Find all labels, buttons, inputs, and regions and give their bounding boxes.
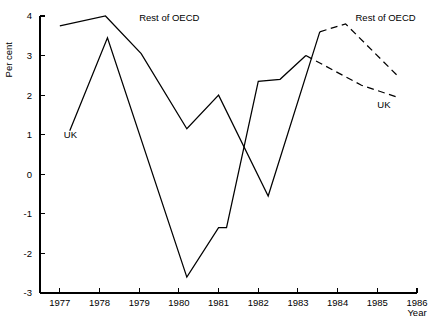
- x-tick-label: 1980: [168, 297, 189, 308]
- series-annotations: Rest of OECDRest of OECDUKUK: [64, 12, 416, 140]
- y-axis-title: Per cent: [3, 42, 14, 78]
- x-axis-tick-labels: 1977197819791980198119821983198419851986: [49, 297, 427, 308]
- series-line-uk: [70, 38, 306, 277]
- y-tick-label: 1: [27, 129, 32, 140]
- series-label-uk: UK: [64, 129, 78, 140]
- y-tick-label: 0: [27, 169, 32, 180]
- line-chart: 43210-1-2-3 1977197819791980198119821983…: [0, 0, 432, 322]
- axis-ticks: [40, 16, 417, 293]
- y-axis-tick-labels: 43210-1-2-3: [24, 10, 32, 298]
- series-line-rest-of-oecd: [60, 16, 320, 196]
- y-tick-label: -3: [24, 287, 32, 298]
- x-tick-label: 1977: [49, 297, 70, 308]
- y-tick-label: 2: [27, 90, 32, 101]
- y-tick-label: -2: [24, 248, 32, 259]
- x-tick-label: 1983: [287, 297, 308, 308]
- y-tick-label: -1: [24, 208, 32, 219]
- x-tick-label: 1978: [89, 297, 110, 308]
- x-tick-label: 1985: [367, 297, 388, 308]
- x-tick-label: 1981: [208, 297, 229, 308]
- series-label-rest-of-oecd-projection: Rest of OECD: [355, 12, 415, 23]
- x-axis-title: Year: [407, 307, 426, 318]
- x-tick-label: 1979: [129, 297, 150, 308]
- data-series-lines: [60, 16, 399, 277]
- y-tick-label: 3: [27, 50, 32, 61]
- x-tick-label: 1984: [327, 297, 348, 308]
- x-tick-label: 1982: [248, 297, 269, 308]
- y-tick-label: 4: [27, 10, 32, 21]
- chart-axes: [40, 16, 417, 293]
- series-label-uk-projection: UK: [377, 99, 391, 110]
- chart-container: 43210-1-2-3 1977197819791980198119821983…: [0, 0, 432, 322]
- series-label-rest-of-oecd: Rest of OECD: [139, 12, 199, 23]
